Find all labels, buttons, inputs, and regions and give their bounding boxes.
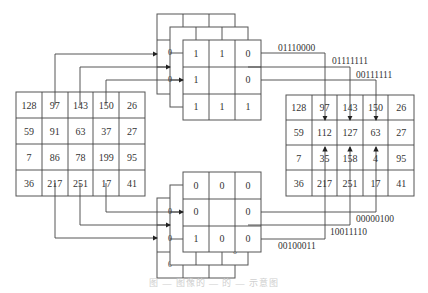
top-mask-cell: 1 (209, 93, 235, 120)
output-cell: 112 (312, 120, 338, 145)
output-cell: 128 (286, 95, 312, 120)
top-code-label-3: 00111111 (356, 70, 392, 80)
bottom-code-label-3: 00100011 (278, 241, 316, 251)
input-cell: 128 (16, 92, 42, 118)
input-cell: 26 (119, 92, 145, 118)
output-cell: 26 (388, 95, 414, 120)
svg-text:0: 0 (168, 207, 172, 216)
bottom-mask-cell: 0 (209, 225, 235, 252)
bottom-mask-cell: 0 (235, 225, 261, 252)
top-mask-cell: 0 (235, 40, 261, 67)
output-cell: 217 (312, 171, 338, 196)
input-cell: 36 (16, 170, 42, 196)
input-cell: 27 (119, 118, 145, 144)
output-cell: 36 (286, 171, 312, 196)
output-cell: 4 (363, 146, 389, 171)
output-cell: 7 (286, 146, 312, 171)
output-cell: 17 (363, 171, 389, 196)
top-code-label-1: 01110000 (278, 43, 315, 53)
bottom-mask-cell: 0 (235, 172, 261, 199)
bottom-mask-cell (209, 199, 235, 226)
bottom-mask-cell: 0 (235, 199, 261, 226)
input-cell: 59 (16, 118, 42, 144)
input-cell: 95 (119, 144, 145, 170)
top-mask-cell: 1 (183, 93, 209, 120)
input-cell: 63 (68, 118, 94, 144)
figure-caption: 图 — 图像的 — 的 — 示意图 (0, 276, 428, 289)
output-cell: 27 (388, 120, 414, 145)
output-cell: 41 (388, 171, 414, 196)
bottom-mask-front-values: 0 0 0 0 0 1 0 0 (183, 172, 261, 252)
bottom-mask-cell: 0 (209, 172, 235, 199)
bottom-mask-cell: 0 (183, 199, 209, 226)
output-matrix: 128 97 143 150 26 59 112 127 63 27 7 35 … (286, 95, 414, 196)
input-cell: 97 (42, 92, 68, 118)
top-mask-front-values: 1 1 0 1 0 1 1 1 (183, 40, 261, 120)
input-matrix: 128 97 143 150 26 59 91 63 37 27 7 86 78… (16, 92, 145, 196)
input-cell: 78 (68, 144, 94, 170)
top-mask-cell: 1 (235, 93, 261, 120)
input-cell: 217 (42, 170, 68, 196)
output-cell: 251 (337, 171, 363, 196)
input-cell: 41 (119, 170, 145, 196)
top-mask-cell (209, 67, 235, 94)
input-cell: 86 (42, 144, 68, 170)
top-mask-cell: 1 (183, 67, 209, 94)
top-mask-cell: 1 (209, 40, 235, 67)
svg-text:0: 0 (168, 234, 172, 243)
bottom-mask-cell: 0 (183, 172, 209, 199)
input-cell: 91 (42, 118, 68, 144)
output-cell: 59 (286, 120, 312, 145)
top-mask-cell: 0 (235, 67, 261, 94)
output-cell: 150 (363, 95, 389, 120)
output-cell: 63 (363, 120, 389, 145)
input-cell: 7 (16, 144, 42, 170)
input-cell: 37 (93, 118, 119, 144)
output-cell: 127 (337, 120, 363, 145)
svg-text:0: 0 (168, 75, 172, 84)
bottom-code-label-1: 00000100 (356, 214, 394, 224)
output-cell: 95 (388, 146, 414, 171)
output-cell: 143 (337, 95, 363, 120)
input-cell: 17 (93, 170, 119, 196)
input-cell: 143 (68, 92, 94, 118)
output-cell: 35 (312, 146, 338, 171)
input-cell: 150 (93, 92, 119, 118)
input-cell: 199 (93, 144, 119, 170)
svg-text:0: 0 (168, 48, 172, 57)
bottom-code-label-2: 10011110 (330, 227, 367, 237)
output-cell: 158 (337, 146, 363, 171)
input-cell: 251 (68, 170, 94, 196)
output-cell: 97 (312, 95, 338, 120)
top-mask-cell: 1 (183, 40, 209, 67)
top-code-label-2: 01111111 (332, 56, 368, 66)
bottom-mask-cell: 1 (183, 225, 209, 252)
